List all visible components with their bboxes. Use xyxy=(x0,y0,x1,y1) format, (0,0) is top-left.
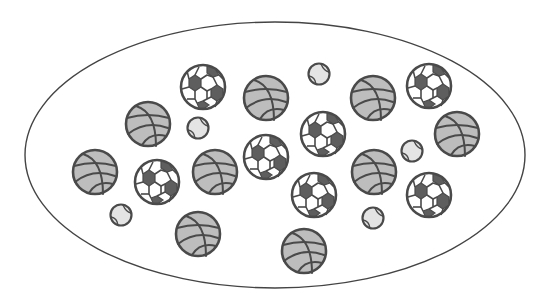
basketball-ball-icon xyxy=(193,150,237,194)
soccer-ball-icon xyxy=(292,173,336,217)
tennis-ball-icon xyxy=(309,64,330,85)
soccer-ball-icon xyxy=(135,160,179,204)
diagram-canvas xyxy=(0,0,550,302)
basketball-ball-icon xyxy=(435,112,479,156)
ball-set-diagram xyxy=(0,0,550,302)
basketball-ball-icon xyxy=(126,102,170,146)
basketball-ball-icon xyxy=(244,76,288,120)
basketball-ball-icon xyxy=(282,229,326,273)
soccer-ball-icon xyxy=(244,135,288,179)
basketball-ball-icon xyxy=(73,150,117,194)
tennis-ball-icon xyxy=(111,205,132,226)
soccer-ball-icon xyxy=(407,173,451,217)
soccer-ball-icon xyxy=(181,65,225,109)
basketball-ball-icon xyxy=(351,76,395,120)
tennis-ball-icon xyxy=(402,141,423,162)
soccer-ball-icon xyxy=(407,64,451,108)
tennis-ball-icon xyxy=(188,118,209,139)
soccer-ball-icon xyxy=(301,112,345,156)
basketball-ball-icon xyxy=(176,212,220,256)
tennis-ball-icon xyxy=(363,208,384,229)
basketball-ball-icon xyxy=(352,150,396,194)
